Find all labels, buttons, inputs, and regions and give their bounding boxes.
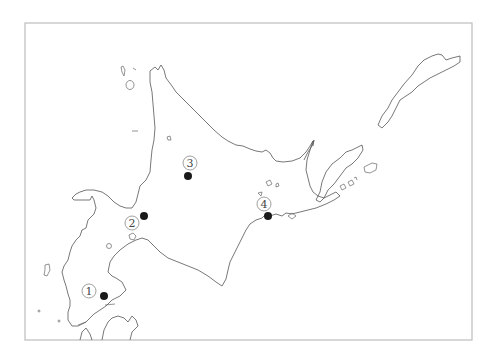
kunashiri-island — [316, 145, 363, 202]
etorofu-island — [378, 54, 460, 128]
marker-4: 4 — [257, 197, 272, 220]
habomai-islets — [340, 177, 357, 190]
lake — [167, 136, 171, 140]
marker-label: 4 — [261, 198, 268, 211]
marker-label: 2 — [129, 217, 136, 230]
marker-dot — [264, 212, 272, 220]
islet — [58, 320, 60, 322]
lake — [276, 183, 279, 187]
islet — [38, 310, 40, 312]
marker-2: 2 — [125, 212, 148, 230]
map: 1 2 3 4 — [0, 0, 495, 355]
islet — [133, 68, 136, 70]
marker-dot — [140, 212, 148, 220]
marker-1: 1 — [82, 284, 108, 300]
islet — [105, 304, 115, 305]
lake-shikotsu — [129, 233, 136, 240]
honshu-shimokita-coastline — [80, 328, 92, 340]
shikotan-island — [364, 163, 377, 173]
marker-3: 3 — [183, 156, 197, 180]
marker-label: 3 — [187, 157, 194, 170]
lake — [258, 192, 262, 196]
lake — [266, 180, 272, 186]
okushiri-island — [44, 264, 50, 276]
marker-label: 1 — [86, 285, 93, 298]
rishiri-island — [126, 81, 134, 90]
islet — [78, 322, 86, 325]
rebun-island — [121, 66, 125, 76]
marker-dot — [100, 292, 108, 300]
hokkaido-main-coastline — [62, 65, 340, 326]
honshu-north-coastline — [102, 316, 138, 340]
lake-toya — [107, 244, 112, 249]
marker-dot — [184, 172, 192, 180]
